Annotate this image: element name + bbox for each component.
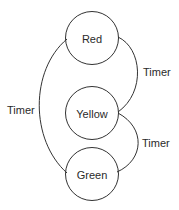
transition-red-yellow-label: Timer: [143, 67, 171, 78]
transition-green-red-label: Timer: [7, 105, 35, 116]
transition-red-to-yellow: [118, 37, 138, 112]
transition-green-to-red: [39, 39, 67, 173]
state-green-label: Green: [77, 170, 108, 181]
state-red-label: Red: [82, 34, 102, 45]
transition-yellow-green-label: Timer: [142, 138, 170, 149]
state-yellow-label: Yellow: [76, 109, 107, 120]
transition-yellow-to-green: [117, 113, 138, 172]
